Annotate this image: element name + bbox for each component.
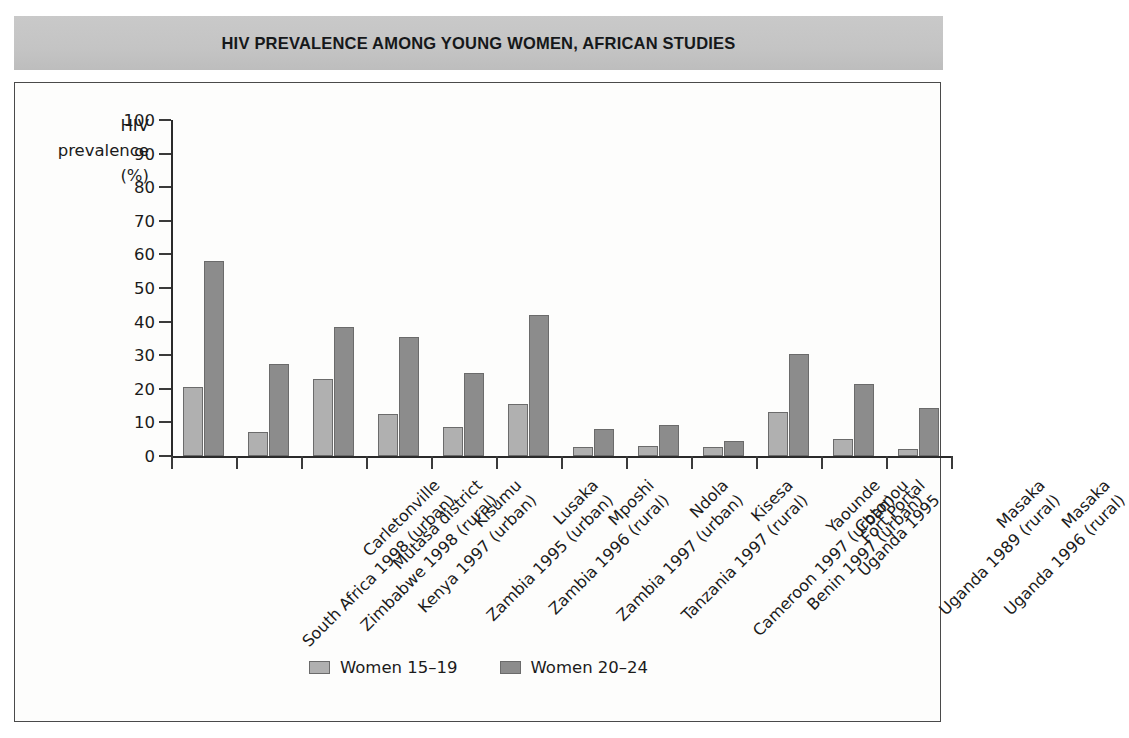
bar-group bbox=[313, 120, 354, 456]
y-axis-tick bbox=[159, 253, 171, 255]
x-axis-tick bbox=[431, 456, 433, 469]
x-axis-tick bbox=[366, 456, 368, 469]
legend-swatch-icon bbox=[500, 661, 521, 674]
bar-group bbox=[833, 120, 874, 456]
bar bbox=[378, 414, 398, 456]
bar bbox=[464, 373, 484, 456]
x-axis-tick bbox=[171, 456, 173, 469]
y-axis-tick-label: 30 bbox=[134, 346, 155, 365]
y-axis-tick-label: 10 bbox=[134, 413, 155, 432]
bar-group bbox=[898, 120, 939, 456]
bar-group bbox=[443, 120, 484, 456]
bar bbox=[703, 447, 723, 456]
bar bbox=[594, 429, 614, 456]
x-axis-tick bbox=[691, 456, 693, 469]
y-axis-title-line-3: (%) bbox=[37, 163, 149, 188]
y-axis-tick-label: 20 bbox=[134, 379, 155, 398]
bar bbox=[204, 261, 224, 456]
x-axis-tick bbox=[496, 456, 498, 469]
x-axis-tick bbox=[951, 456, 953, 469]
chart-frame: HIV prevalence (%) 010203040506070809010… bbox=[14, 82, 941, 722]
bar bbox=[183, 387, 203, 456]
bar bbox=[313, 379, 333, 456]
y-axis-tick bbox=[159, 354, 171, 356]
x-axis-tick bbox=[236, 456, 238, 469]
legend-swatch-icon bbox=[309, 661, 330, 674]
bar bbox=[898, 449, 918, 456]
x-axis-tick bbox=[821, 456, 823, 469]
y-axis-tick-label: 70 bbox=[134, 211, 155, 230]
y-axis-tick bbox=[159, 455, 171, 457]
x-axis-tick bbox=[561, 456, 563, 469]
bar-group bbox=[573, 120, 614, 456]
chart-legend: Women 15–19Women 20–24 bbox=[15, 658, 942, 677]
y-axis-tick-label: 80 bbox=[134, 178, 155, 197]
bar bbox=[854, 384, 874, 456]
x-axis-tick bbox=[301, 456, 303, 469]
x-axis-labels: CarletonvilleSouth Africa 1998 (urban)Mu… bbox=[171, 475, 951, 685]
plot-inner: 0102030405060708090100 bbox=[171, 120, 951, 456]
y-axis-tick bbox=[159, 421, 171, 423]
bar-group bbox=[508, 120, 549, 456]
y-axis-tick bbox=[159, 220, 171, 222]
bar bbox=[724, 441, 744, 456]
y-axis-tick-label: 0 bbox=[145, 447, 156, 466]
y-axis-tick bbox=[159, 186, 171, 188]
y-axis-tick bbox=[159, 321, 171, 323]
y-axis-tick bbox=[159, 388, 171, 390]
plot-area: 0102030405060708090100 bbox=[171, 120, 951, 456]
bar-group bbox=[768, 120, 809, 456]
bar bbox=[768, 412, 788, 456]
y-axis-tick-label: 100 bbox=[124, 111, 156, 130]
bar bbox=[443, 427, 463, 456]
title-band: HIV PREVALENCE AMONG YOUNG WOMEN, AFRICA… bbox=[14, 16, 943, 70]
x-axis-tick bbox=[626, 456, 628, 469]
bar bbox=[659, 425, 679, 456]
bar bbox=[508, 404, 528, 456]
bar-group bbox=[248, 120, 289, 456]
y-axis-tick bbox=[159, 287, 171, 289]
legend-item: Women 15–19 bbox=[309, 658, 458, 677]
bar-group bbox=[703, 120, 744, 456]
bar-group bbox=[638, 120, 679, 456]
bar-group bbox=[378, 120, 419, 456]
bar bbox=[789, 354, 809, 456]
bar bbox=[919, 408, 939, 456]
legend-label: Women 15–19 bbox=[340, 658, 458, 677]
bar bbox=[248, 432, 268, 456]
y-axis-line bbox=[171, 120, 173, 456]
bar bbox=[833, 439, 853, 456]
y-axis-title-line-2: prevalence bbox=[37, 138, 149, 163]
bar-group bbox=[183, 120, 224, 456]
bar bbox=[399, 337, 419, 456]
y-axis-tick bbox=[159, 119, 171, 121]
bar bbox=[638, 446, 658, 456]
bar bbox=[334, 327, 354, 456]
y-axis-tick-label: 60 bbox=[134, 245, 155, 264]
bar bbox=[573, 447, 593, 456]
page-title: HIV PREVALENCE AMONG YOUNG WOMEN, AFRICA… bbox=[14, 16, 943, 70]
y-axis-tick-label: 50 bbox=[134, 279, 155, 298]
y-axis-tick-label: 90 bbox=[134, 144, 155, 163]
x-axis-tick bbox=[756, 456, 758, 469]
y-axis-tick bbox=[159, 153, 171, 155]
bar bbox=[529, 315, 549, 456]
y-axis-tick-label: 40 bbox=[134, 312, 155, 331]
legend-label: Women 20–24 bbox=[531, 658, 649, 677]
x-axis-tick bbox=[886, 456, 888, 469]
legend-item: Women 20–24 bbox=[500, 658, 649, 677]
bar bbox=[269, 364, 289, 456]
